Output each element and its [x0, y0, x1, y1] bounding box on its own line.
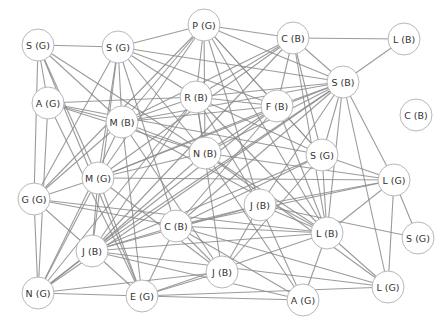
node-label: N (B) — [193, 148, 217, 159]
node-label: R (B) — [184, 92, 208, 103]
node-label: G (G) — [21, 194, 46, 205]
node-label: S (B) — [332, 77, 355, 88]
edge-n24-n25 — [142, 296, 303, 300]
node-n12[interactable]: N (B) — [189, 137, 221, 169]
node-label: C (B) — [164, 221, 188, 232]
node-label: L (G) — [376, 282, 399, 293]
node-label: E (G) — [130, 291, 154, 302]
edge-n11-n19 — [122, 122, 327, 233]
node-label: C (B) — [281, 33, 305, 44]
node-label: S (G) — [310, 150, 334, 161]
node-n24[interactable]: E (G) — [126, 280, 158, 312]
node-label: A (G) — [36, 98, 60, 109]
node-n1[interactable]: S (G) — [22, 29, 54, 61]
node-n16[interactable]: G (G) — [18, 183, 50, 215]
node-label: C (B) — [404, 110, 428, 121]
node-n6[interactable]: S (B) — [327, 66, 359, 98]
node-n10[interactable]: A (G) — [32, 87, 64, 119]
node-n20[interactable]: S (G) — [402, 222, 434, 254]
node-label: J (B) — [81, 246, 102, 257]
node-n18[interactable]: C (B) — [160, 210, 192, 242]
edge-n21-n25 — [92, 251, 303, 300]
node-label: J (B) — [211, 267, 232, 278]
node-n3[interactable]: P (G) — [188, 9, 220, 41]
node-n13[interactable]: S (G) — [306, 139, 338, 171]
node-label: S (G) — [106, 42, 130, 53]
node-n19[interactable]: L (B) — [311, 217, 343, 249]
node-label: J (B) — [249, 200, 270, 211]
network-graph: S (G)S (G)P (G)C (B)L (B)S (B)R (B)F (B)… — [0, 0, 447, 330]
node-label: S (G) — [406, 233, 430, 244]
node-n8[interactable]: F (B) — [261, 90, 293, 122]
edge-n1-n16 — [34, 45, 38, 199]
node-n11[interactable]: M (B) — [106, 106, 138, 138]
node-label: L (B) — [316, 228, 338, 239]
node-n4[interactable]: C (B) — [277, 22, 309, 54]
node-label: L (B) — [393, 34, 415, 45]
node-n9[interactable]: C (B) — [400, 99, 432, 131]
node-n22[interactable]: J (B) — [206, 256, 238, 288]
node-n17[interactable]: J (B) — [244, 189, 276, 221]
node-label: P (G) — [192, 20, 216, 31]
node-label: S (G) — [26, 40, 50, 51]
node-label: A (G) — [291, 295, 315, 306]
node-n7[interactable]: R (B) — [180, 81, 212, 113]
node-label: M (G) — [85, 173, 111, 184]
edge-n24-n26 — [142, 287, 388, 296]
node-label: N (G) — [26, 288, 51, 299]
node-n26[interactable]: L (G) — [372, 271, 404, 303]
node-n2[interactable]: S (G) — [102, 31, 134, 63]
node-label: M (B) — [109, 117, 134, 128]
edge-n3-n6 — [204, 25, 343, 82]
edge-n4-n5 — [293, 38, 404, 39]
node-n15[interactable]: L (G) — [378, 164, 410, 196]
node-n25[interactable]: A (G) — [287, 284, 319, 316]
node-label: F (B) — [266, 101, 288, 112]
node-n5[interactable]: L (B) — [388, 23, 420, 55]
node-n23[interactable]: N (G) — [22, 277, 54, 309]
node-n21[interactable]: J (B) — [76, 235, 108, 267]
edge-n7-n10 — [48, 97, 196, 103]
node-n14[interactable]: M (G) — [82, 162, 114, 194]
node-label: L (G) — [382, 175, 405, 186]
